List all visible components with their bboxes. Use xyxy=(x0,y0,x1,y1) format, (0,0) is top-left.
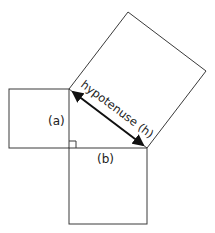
label-b: (b) xyxy=(97,152,114,166)
label-hypotenuse: hypotenuse (h) xyxy=(78,77,156,141)
right-angle-marker xyxy=(69,141,76,148)
label-a: (a) xyxy=(48,114,65,128)
pythagoras-diagram: (a) (b) hypotenuse (h) xyxy=(0,0,215,233)
